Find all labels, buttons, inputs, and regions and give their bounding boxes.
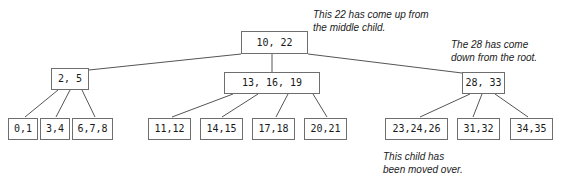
annotation-promoted-key: This 22 has come up from the middle chil… (313, 8, 429, 34)
leaf-node-23-24-26: 23,24,26 (385, 118, 448, 140)
edge-middle-to-leaf-14-15 (222, 94, 258, 117)
leaf-node-6-7-8: 6,7,8 (72, 118, 113, 140)
edge-middle-to-leaf-20-21 (313, 94, 327, 117)
annotation-demoted-key: The 28 has come down from the root. (451, 38, 537, 64)
leaf-node-20-21: 20,21 (304, 118, 347, 140)
edge-right-to-leaf-31-32 (473, 94, 482, 117)
leaf-node-31-32: 31,32 (457, 118, 500, 140)
edge-left-to-leaf-0-1 (25, 90, 58, 117)
edge-root-to-left (89, 54, 241, 70)
edge-left-to-leaf-6-7-8 (82, 90, 95, 117)
internal-node-left: 2, 5 (51, 68, 89, 90)
edge-right-to-leaf-23-24-26 (420, 94, 470, 117)
annotation-moved-child: This child has been moved over. (383, 150, 463, 176)
leaf-node-14-15: 14,15 (200, 118, 243, 140)
leaf-node-11-12: 11,12 (148, 118, 191, 140)
root-node: 10, 22 (241, 31, 308, 54)
edge-middle-to-leaf-11-12 (172, 94, 233, 117)
tree-diagram: 10, 22 2, 513, 16, 1928, 33 0,13,46,7,81… (0, 0, 576, 183)
internal-node-right: 28, 33 (462, 72, 505, 94)
edge-middle-to-leaf-17-18 (276, 94, 288, 117)
edge-root-to-right (308, 54, 462, 73)
leaf-node-34-35: 34,35 (510, 118, 553, 140)
edge-right-to-leaf-34-35 (495, 94, 528, 117)
edge-left-to-leaf-3-4 (56, 90, 70, 117)
leaf-node-17-18: 17,18 (252, 118, 295, 140)
leaf-node-0-1: 0,1 (8, 118, 38, 140)
leaf-node-3-4: 3,4 (40, 118, 70, 140)
internal-node-middle: 13, 16, 19 (224, 72, 320, 94)
